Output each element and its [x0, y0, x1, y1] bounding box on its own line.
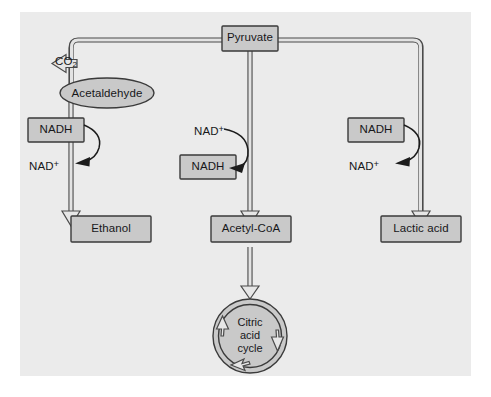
- cofactor-left-nadh-label: NADH: [28, 123, 84, 135]
- node-pyruvate-label: Pyruvate: [222, 31, 278, 43]
- cofactor-right-nadplus-label: NAD+: [349, 158, 379, 172]
- cofactor-middle-nadplus-label: NAD+: [194, 123, 224, 137]
- node-acetaldehyde-label: Acetaldehyde: [60, 87, 154, 99]
- pipe-acetyl-coa-to-citric-cycle: [241, 247, 259, 299]
- node-co2-label: CO2: [55, 55, 77, 69]
- node-citric-acid-cycle-label: Citric acid cycle: [220, 316, 280, 355]
- cofactor-middle-nadh-label: NADH: [180, 160, 236, 172]
- citric-cycle-line-2: acid: [220, 329, 280, 342]
- diagram-figure: .pipe-outer { fill: none; stroke: #4a4a4…: [0, 0, 491, 397]
- cofactor-left-nadplus-label: NAD+: [29, 158, 59, 172]
- node-acetyl-coa-label: Acetyl-CoA: [211, 222, 291, 234]
- cofactor-right-nadh-label: NADH: [348, 123, 404, 135]
- node-lactic-acid-label: Lactic acid: [381, 222, 461, 234]
- citric-cycle-line-1: Citric: [220, 316, 280, 329]
- node-ethanol-label: Ethanol: [71, 222, 151, 234]
- citric-cycle-line-3: cycle: [220, 342, 280, 355]
